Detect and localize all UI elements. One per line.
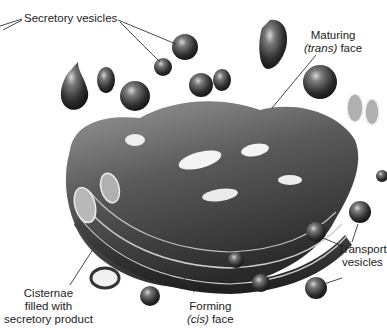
label-forming-cis-face: Forming (cis) face [187,300,234,326]
label-transport-vesicles: Transport vesicles [338,243,387,269]
golgi-stack [66,94,379,294]
label-cisternae: Cisternae filled with secretory product [4,287,93,326]
label-secretory-vesicles: Secretory vesicles [24,12,117,25]
label-maturing-trans-face: Maturing (trans) face [304,29,362,55]
secretory-vesicles [61,20,337,111]
golgi-diagram: Secretory vesicles Maturing (trans) face… [0,0,387,329]
